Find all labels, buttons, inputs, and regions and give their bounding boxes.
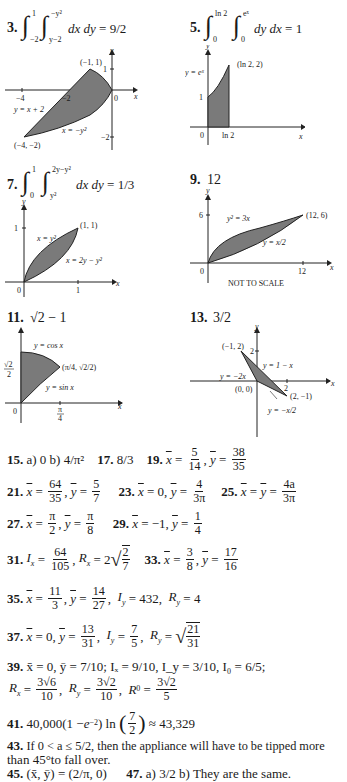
answer-15: a) 0 b) 4/π² — [27, 453, 85, 466]
answer-number: 43. — [7, 738, 23, 753]
problem-number: 5. — [190, 20, 201, 36]
svg-text:ln 2: ln 2 — [222, 131, 234, 140]
svg-text:1: 1 — [32, 165, 36, 174]
svg-text:x: x — [115, 279, 120, 288]
svg-text:y: y — [21, 200, 26, 206]
answer-row: 27. x = π2, y = π8 29. x = −1, y = 14 — [7, 510, 204, 536]
svg-text:0: 0 — [241, 35, 245, 44]
svg-text:1: 1 — [199, 93, 203, 102]
svg-text:y−2: y−2 — [49, 35, 62, 44]
svg-text:x = 2y − y²: x = 2y − y² — [65, 256, 102, 265]
svg-text:y: y — [109, 46, 114, 55]
answer-47: a) 3/2 b) They are the same. — [146, 766, 291, 781]
graph-problem-7: y 1 (1, 1) x = y² x = 2y − y² 0 1 x — [0, 200, 130, 305]
svg-text:x: x — [298, 132, 303, 141]
answer-row: 39. x̄ = 0, ȳ = 7/10; Iₓ = 9/10, I_y = 3… — [7, 659, 265, 673]
problem-number: 9. — [190, 172, 201, 188]
svg-text:−2: −2 — [62, 94, 71, 103]
svg-text:y = x/2: y = x/2 — [262, 238, 286, 247]
svg-text:0: 0 — [213, 35, 217, 44]
svg-text:x = −y²: x = −y² — [61, 126, 87, 135]
answer-row: 31. Ix = 64105, Rx = 2√27 33. x = 38, y … — [7, 545, 240, 573]
answer-35-Iy: 432 — [139, 592, 159, 605]
svg-text:1: 1 — [76, 286, 80, 295]
integral-result: = 9/2 — [99, 22, 126, 35]
svg-text:x: x — [330, 379, 335, 388]
graph-problem-11: y = cos x √2 2 (π/4, √2/2) y = sin x 0 π… — [0, 325, 140, 435]
svg-text:y = −2x: y = −2x — [219, 372, 246, 381]
svg-text:ln 2: ln 2 — [215, 9, 227, 18]
answer-row: 15. a) 0 b) 4/π² 17. 8/3 19. x = 514, y … — [7, 447, 248, 471]
svg-text:y: y — [205, 45, 210, 50]
svg-text:(ln 2, 2): (ln 2, 2) — [237, 60, 263, 69]
svg-text:12: 12 — [298, 267, 306, 276]
graph-problem-13: y (−1, 2) 2 y = 1 − x y = −2x x (0, 0) 2… — [190, 325, 347, 440]
svg-text:y = x + 2: y = x + 2 — [13, 105, 44, 114]
svg-text:2: 2 — [250, 347, 254, 356]
svg-text:(0, 0): (0, 0) — [235, 385, 253, 394]
svg-text:−4: −4 — [16, 94, 25, 103]
svg-text:−y²: −y² — [51, 9, 63, 18]
svg-text:6: 6 — [199, 211, 203, 220]
answer-number: 15. — [7, 453, 23, 466]
svg-text:x = y²: x = y² — [36, 234, 57, 243]
svg-text:(−4, −2): (−4, −2) — [14, 141, 41, 150]
svg-text:y = −x/2: y = −x/2 — [267, 406, 296, 415]
answer-value: 12 — [207, 172, 221, 188]
answer-43-line2: than 45°to fall over. — [7, 752, 110, 767]
svg-text:eˣ: eˣ — [243, 9, 250, 18]
svg-text:0: 0 — [17, 286, 21, 295]
svg-text:√2: √2 — [4, 360, 12, 369]
svg-text:x: x — [329, 263, 334, 272]
svg-text:2y−y²: 2y−y² — [52, 165, 72, 174]
answer-value: √2 − 1 — [30, 310, 67, 326]
graph-problem-3: (−1, 1) y x 1 −4 −2 0 y = x + 2 x = −y² … — [0, 45, 140, 155]
answer-number: 47. — [126, 766, 142, 781]
svg-text:0: 0 — [200, 267, 204, 276]
integral-result: = 1 — [285, 22, 302, 35]
answer-43-line1: If 0 < a ≤ 5/2, then the appliance will … — [27, 739, 325, 753]
svg-text:y = sin x: y = sin x — [45, 383, 74, 392]
svg-text:1: 1 — [103, 65, 107, 74]
svg-text:(2, −1): (2, −1) — [290, 392, 312, 401]
answer-number: 21. — [7, 485, 23, 498]
svg-text:(12, 6): (12, 6) — [306, 211, 328, 220]
answer-number: 27. — [7, 517, 23, 530]
integrand: dx dy — [68, 22, 96, 35]
answer-number: 37. — [7, 630, 23, 643]
answer-number: 23. — [119, 485, 135, 498]
answer-number: 29. — [113, 517, 129, 530]
svg-text:x: x — [133, 92, 138, 101]
svg-text:−2: −2 — [30, 35, 39, 44]
svg-text:4: 4 — [58, 414, 62, 423]
answer-35-Ry: 4 — [194, 592, 201, 605]
svg-text:y = 1 − x: y = 1 − x — [262, 361, 293, 370]
integrand: dx dy — [76, 178, 104, 191]
svg-text:y: y — [205, 188, 210, 195]
answer-row: 37. x = 0, y = 1331, Iy = 75, Ry = √2131 — [7, 622, 202, 650]
problem-number: 13. — [190, 310, 208, 326]
svg-text:y² = 3x: y² = 3x — [226, 214, 250, 223]
answer-number: 41. — [7, 717, 23, 730]
answer-45: (x̄, ȳ) = (2/π, 0) — [27, 766, 107, 781]
problem-number: 7. — [7, 177, 18, 193]
svg-text:y = eˣ: y = eˣ — [185, 68, 205, 77]
answer-number: 31. — [7, 553, 23, 566]
answer-17: 8/3 — [117, 453, 134, 466]
answer-39-line1: x̄ = 0, ȳ = 7/10; Iₓ = 9/10, I_y = 3/10,… — [27, 660, 266, 673]
answer-row: Rx = 3√610, Ry = 3√210, R0 = 3√25 — [9, 675, 179, 703]
integrand: dy dx — [254, 22, 282, 35]
svg-text:0: 0 — [114, 94, 118, 103]
graph-problem-9: y 6 y² = 3x (12, 6) y = x/2 0 12 x NOT T… — [190, 188, 340, 298]
answer-number: 17. — [97, 453, 113, 466]
answer-value: 3/2 — [213, 310, 231, 326]
svg-text:y: y — [254, 325, 259, 331]
answer-row: 35. x = 113, y = 1427, Iy = 432, Ry = 4 — [7, 585, 200, 611]
svg-text:0: 0 — [30, 191, 34, 200]
not-to-scale-note: NOT TO SCALE — [228, 279, 284, 288]
svg-text:1: 1 — [14, 224, 18, 233]
answer-number: 33. — [145, 553, 161, 566]
point-label: (−1, 1) — [80, 58, 102, 67]
graph-problem-5: y (ln 2, 2) y = eˣ 1 0 ln 2 x — [185, 45, 305, 155]
svg-text:1: 1 — [32, 9, 36, 18]
